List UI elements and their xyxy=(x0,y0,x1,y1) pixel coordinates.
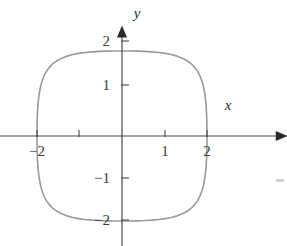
graph-figure: −212 21−1−2 x y xyxy=(0,0,287,246)
tick-label: −2 xyxy=(29,143,45,159)
x-axis-arrowhead xyxy=(276,131,287,141)
tick-label: −1 xyxy=(94,170,110,186)
tick-label: −2 xyxy=(94,212,110,228)
tick-label: 2 xyxy=(203,143,211,159)
y-axis-ticks: 21−1−2 xyxy=(94,33,129,228)
tick-label: 1 xyxy=(103,77,111,93)
tick-label: 1 xyxy=(161,143,169,159)
graph-canvas: −212 21−1−2 x y xyxy=(0,0,287,246)
x-axis-ticks: −212 xyxy=(29,130,211,159)
tick-label: 2 xyxy=(103,33,111,49)
y-axis-arrowhead xyxy=(117,26,127,38)
x-axis-label: x xyxy=(224,97,232,113)
scan-artifact-speck xyxy=(276,179,284,182)
y-axis-label: y xyxy=(132,5,141,21)
